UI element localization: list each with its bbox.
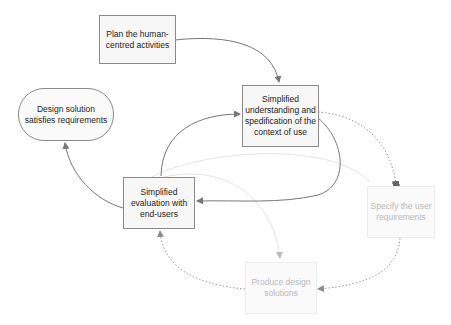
node-plan-label: Plan the human-centred activities <box>100 29 175 51</box>
edge-produce-to-evaluate <box>160 231 245 289</box>
node-understand-label: Simplified understanding and spedificati… <box>243 94 318 138</box>
node-produce-label: Produce design solutions <box>246 277 316 299</box>
edge-evaluate-to-understand <box>161 114 240 176</box>
node-produce-solutions: Produce design solutions <box>245 262 317 314</box>
node-solution-satisfies: Design solution satisfies requirements <box>18 88 114 141</box>
node-specify-label: Specify the user requirements <box>368 201 434 223</box>
node-solution-label: Design solution satisfies requirements <box>19 104 113 126</box>
node-plan-activities: Plan the human-centred activities <box>99 15 176 64</box>
edge-understand-to-specify <box>318 112 396 184</box>
edge-specify-to-produce <box>318 238 400 289</box>
edge-plan-to-understand <box>175 38 279 82</box>
node-evaluate-label: Simplified evaluation with end-users <box>124 187 194 220</box>
node-evaluate-end-users: Simplified evaluation with end-users <box>123 177 195 229</box>
diagram-edges <box>0 0 451 325</box>
edge-evaluate-to-solution <box>65 143 123 208</box>
node-understand-context: Simplified understanding and spedificati… <box>242 85 319 147</box>
node-specify-requirements: Specify the user requirements <box>367 186 435 238</box>
